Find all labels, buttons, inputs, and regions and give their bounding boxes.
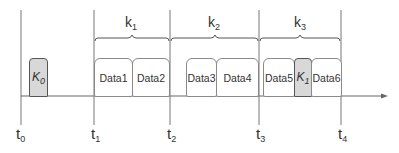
time-label-t0: t0 [16,125,25,144]
data-block-5: Data5 [263,58,295,97]
interval-label-k3: k3 [294,14,306,32]
axis-arrow-icon [381,94,388,99]
brace-k1 [95,35,169,41]
key-block-k0: K0 [29,58,48,97]
time-label-t2: t2 [167,125,176,144]
data-block-4: Data4 [216,58,259,97]
data-block-3: Data3 [186,58,217,97]
data-block-1: Data1 [94,58,133,97]
key-block-k1: K1 [294,58,312,97]
time-label-t1: t1 [91,125,100,144]
brace-k3 [260,35,340,41]
time-label-t4: t4 [338,125,347,144]
brace-k2 [171,35,258,41]
data-block-6: Data6 [311,58,342,97]
interval-label-k2: k2 [208,14,220,32]
interval-label-k1: k1 [125,14,137,32]
data-block-2: Data2 [132,58,170,97]
time-label-t3: t3 [256,125,265,144]
